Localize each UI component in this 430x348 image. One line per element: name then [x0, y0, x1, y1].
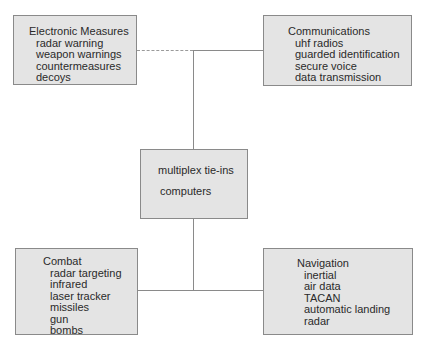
node-item: data transmission	[288, 72, 411, 84]
node-electronic-measures: Electronic Measures radar warning weapon…	[13, 15, 137, 85]
connector-communications	[193, 50, 263, 51]
connector-bottom-vertical	[193, 219, 194, 290]
node-item: air data	[297, 281, 412, 293]
node-title: Navigation	[297, 258, 412, 270]
connector-bottom-horizontal	[138, 290, 263, 291]
node-item: bombs	[43, 325, 137, 337]
node-item: infrared	[43, 279, 137, 291]
node-line-computers: computers	[160, 186, 211, 198]
node-multiplex-computers: multiplex tie-ins computers	[140, 149, 248, 219]
connector-top-vertical	[193, 50, 194, 149]
node-combat: Combat radar targeting infrared laser tr…	[15, 248, 138, 335]
node-title: Combat	[43, 256, 137, 268]
node-item: radar	[297, 316, 412, 328]
node-title: Electronic Measures	[29, 26, 136, 38]
node-navigation: Navigation inertial air data TACAN autom…	[263, 248, 413, 335]
node-item: guarded identification	[288, 49, 411, 61]
node-item: decoys	[29, 72, 136, 84]
node-item: automatic landing	[297, 304, 412, 316]
node-line-multiplex: multiplex tie-ins	[158, 165, 234, 177]
node-communications: Communications uhf radios guarded identi…	[263, 15, 412, 86]
node-item: weapon warnings	[29, 49, 136, 61]
connector-electronic-measures-dashed	[137, 50, 193, 51]
node-item: missiles	[43, 302, 137, 314]
node-title: Communications	[288, 26, 411, 38]
